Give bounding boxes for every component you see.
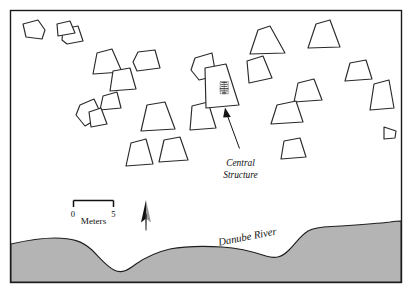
central-structure-label-line2: Structure xyxy=(223,170,258,180)
scale-max-label: 5 xyxy=(111,209,115,219)
scale-min-label: 0 xyxy=(71,209,75,219)
hut-outline xyxy=(133,50,160,71)
central-structure-label-line1: Central xyxy=(226,158,255,168)
site-plan-canvas: 0 5 Meters Central Structure Danube Rive… xyxy=(0,0,412,293)
scale-unit-label: Meters xyxy=(81,216,107,226)
site-plan-figure: 0 5 Meters Central Structure Danube Rive… xyxy=(0,0,412,293)
